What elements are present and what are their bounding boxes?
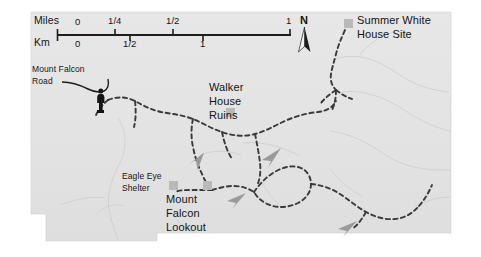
label-walker-house-ruins-line3: Ruins (209, 109, 238, 123)
scale-label-miles: Miles (34, 14, 59, 27)
marker-eagle-eye-shelter (169, 181, 178, 190)
map-paper (31, 12, 451, 241)
label-summer-white-house-site-line2: House Site (357, 28, 412, 42)
scale-tick-km-0: 0 (75, 38, 80, 50)
marker-mount-falcon-lookout (203, 181, 212, 190)
scale-tick-km-half: 1/2 (123, 38, 137, 50)
label-walker-house-ruins-line2: House (209, 95, 241, 109)
scale-tick-miles-half: 1/2 (166, 15, 180, 27)
label-summer-white-house-site-line1: Summer White (357, 14, 431, 28)
scale-tick-miles-quarter: 1/4 (108, 15, 122, 27)
marker-summer-white-house-site (344, 19, 353, 28)
label-mount-falcon-lookout-line1: Mount (166, 193, 197, 207)
label-mount-falcon-road-line2: Road (32, 76, 53, 87)
scale-tick-km-one: 1 (200, 38, 205, 50)
label-walker-house-ruins-line1: Walker (209, 81, 243, 95)
scale-tick-miles-one: 1 (286, 15, 291, 27)
label-mount-falcon-road-line1: Mount Falcon (32, 64, 85, 75)
label-mount-falcon-lookout-line2: Falcon (166, 207, 200, 221)
label-eagle-eye-shelter-line1: Eagle Eye (122, 171, 162, 182)
north-label: N (300, 14, 308, 28)
label-mount-falcon-lookout-line3: Lookout (166, 221, 206, 235)
scale-tick-miles-0: 0 (75, 16, 80, 28)
label-eagle-eye-shelter-line2: Shelter (122, 183, 150, 194)
scale-label-km: Km (34, 36, 50, 49)
trail-map: Miles Km 0 1/4 1/2 1 0 1/2 1 N Summer Wh… (0, 0, 481, 257)
map-paper-shape (31, 12, 451, 241)
